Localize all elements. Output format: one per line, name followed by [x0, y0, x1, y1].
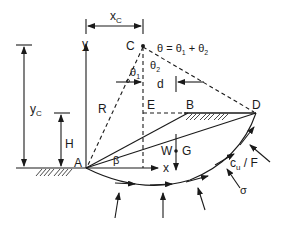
x-axis-label: x	[163, 161, 169, 175]
sigma-label: σ	[240, 184, 247, 196]
y-axis-label: y	[82, 37, 88, 51]
yc-label: yC	[30, 102, 42, 118]
point-label-B: B	[186, 98, 194, 112]
w-label: W	[161, 144, 173, 158]
xc-label: xC	[110, 9, 122, 25]
centroid-G	[174, 149, 178, 153]
d-label: d	[157, 77, 164, 91]
theta-equation: θ = θ1 + θ2	[157, 42, 208, 56]
theta2-label: θ2	[150, 59, 160, 73]
h-label: H	[65, 137, 74, 151]
point-label-D: D	[252, 98, 261, 112]
toe-ground-hatch	[36, 169, 72, 176]
beta-label: β	[113, 154, 119, 166]
point-label-E: E	[147, 98, 155, 112]
point-label-A: A	[74, 156, 82, 170]
theta1-label: θ1	[130, 66, 140, 80]
crest-ground-hatch	[186, 114, 228, 120]
r-label: R	[98, 102, 107, 116]
center-point-C	[141, 44, 145, 48]
radius-R	[88, 47, 143, 165]
slope-stability-diagram: xC yC H θ1 θ2 θ = θ1 + θ2 d R C E B D A …	[0, 0, 283, 229]
g-label: G	[182, 144, 191, 158]
point-label-C: C	[126, 39, 135, 53]
cu-over-f-label: cu / F	[230, 156, 258, 172]
